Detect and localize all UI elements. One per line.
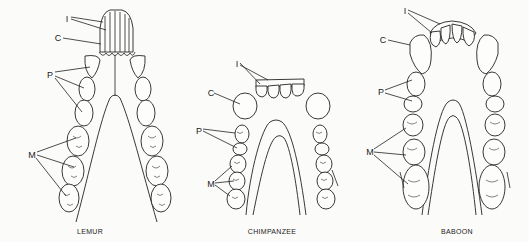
baboon-jaw-drawing xyxy=(374,10,510,215)
chimpanzee-label-molars: M xyxy=(207,180,215,189)
lemur-label-canine: C xyxy=(55,34,62,43)
chimpanzee-label-canine: C xyxy=(208,89,215,98)
lemur-caption: LEMUR xyxy=(77,228,103,235)
baboon-label-molars: M xyxy=(366,148,374,157)
lemur-label-incisors: I xyxy=(66,15,69,24)
dentition-drawings xyxy=(0,0,529,242)
lemur-label-molars: M xyxy=(28,151,36,160)
baboon-label-canine: C xyxy=(380,36,387,45)
chimpanzee-jaw-drawing xyxy=(203,63,338,215)
lemur-label-premolars: P xyxy=(47,71,53,80)
baboon-label-incisors: I xyxy=(404,7,407,16)
baboon-label-premolars: P xyxy=(378,88,384,97)
chimpanzee-label-premolars: P xyxy=(196,127,202,136)
chimpanzee-label-incisors: I xyxy=(236,60,239,69)
chimpanzee-caption: CHIMPANZEE xyxy=(248,228,296,235)
baboon-caption: BABOON xyxy=(441,228,473,235)
dentition-figure: I C P M LEMUR I C P M CHIMPANZEE I C P M… xyxy=(0,0,529,242)
